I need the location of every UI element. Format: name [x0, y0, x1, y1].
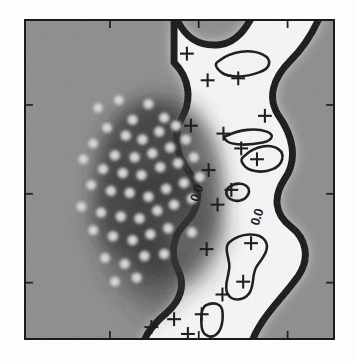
film-grain-overlay: [26, 21, 333, 338]
plot-surface: 0.00.0: [26, 21, 333, 338]
plot-frame: 0.00.0: [24, 19, 335, 340]
figure-canvas: 0.00.0: [0, 0, 355, 361]
